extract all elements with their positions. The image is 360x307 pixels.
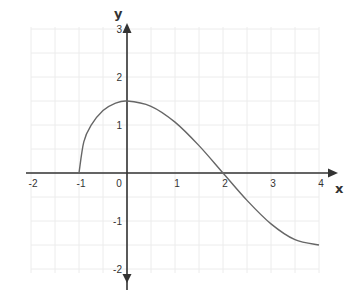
x-tick-label: 0 <box>116 178 122 189</box>
x-tick-labels: -2-101234 <box>29 178 325 189</box>
x-tick-label: 1 <box>174 178 180 189</box>
y-axis-arrow-down-icon <box>123 274 132 283</box>
y-tick-label: 2 <box>116 72 122 83</box>
axes <box>26 23 338 290</box>
x-tick-label: -2 <box>29 178 38 189</box>
x-tick-label: 3 <box>270 178 276 189</box>
x-axis-label: x <box>335 181 344 196</box>
function-graph: -2-101234 -2-1123 x y <box>0 0 360 307</box>
y-axis-label: y <box>114 6 123 21</box>
y-tick-label: -2 <box>113 264 122 275</box>
x-tick-label: -1 <box>77 178 86 189</box>
y-tick-label: 3 <box>116 24 122 35</box>
y-tick-label: -1 <box>113 216 122 227</box>
x-tick-label: 4 <box>318 178 324 189</box>
grid <box>31 27 319 273</box>
y-tick-label: 1 <box>116 120 122 131</box>
x-tick-label: 2 <box>222 178 228 189</box>
x-axis-arrow-icon <box>328 169 338 178</box>
y-axis-arrow-up-icon <box>123 23 132 33</box>
